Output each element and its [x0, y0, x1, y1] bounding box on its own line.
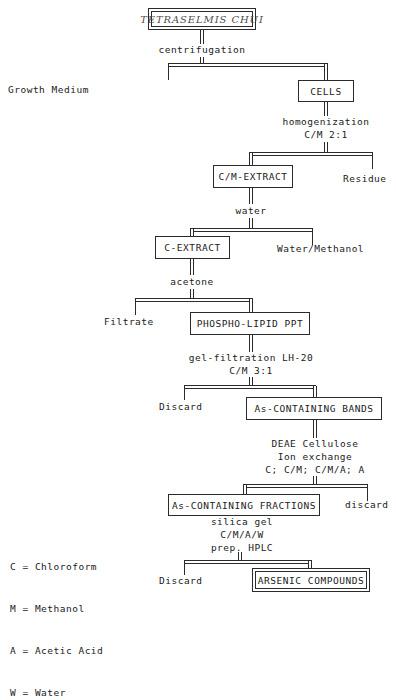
node-arsenic-compounds: ARSENIC COMPOUNDS: [252, 568, 370, 592]
branch-bar-centrifugation: [168, 63, 328, 67]
byproduct-residue: Residue: [343, 173, 387, 186]
legend: C = Chloroform M = Methanol A = Acetic A…: [10, 532, 103, 700]
process-centrifugation: centrifugation: [158, 44, 245, 57]
node-cm-extract-label: C/M-EXTRACT: [215, 171, 292, 182]
node-arsenic-compounds-label: ARSENIC COMPOUNDS: [254, 575, 369, 586]
branch-bar-acetone: [135, 298, 253, 302]
node-organism: TETRASELMIS CHUI: [148, 8, 256, 30]
byproduct-filtrate: Filtrate: [104, 316, 154, 329]
node-as-containing-bands-label: As-CONTAINING BANDS: [250, 403, 377, 414]
connector-cm-extract-water: [249, 188, 253, 204]
process-water: water: [235, 205, 266, 218]
branch-bar-gelfiltration: [184, 385, 316, 389]
connector-bands-deae: [313, 420, 317, 438]
node-cells-label: CELLS: [306, 86, 345, 97]
process-deae-line3: C; C/M; C/M/A; A: [265, 464, 365, 477]
branch-bar-water: [190, 228, 313, 232]
branch-drop-residue: [372, 153, 373, 169]
legend-item-methanol: M = Methanol: [10, 602, 103, 616]
node-as-containing-bands: As-CONTAINING BANDS: [246, 397, 382, 420]
branch-drop-cells: [324, 64, 328, 81]
connector-c-extract-acetone: [190, 259, 194, 275]
branch-bar-hplc: [184, 560, 312, 564]
process-hplc-line3: prep. HPLC: [211, 542, 273, 555]
process-hplc-line2: C/M/A/W: [220, 529, 264, 542]
node-as-containing-fractions-label: As-CONTAINING FRACTIONS: [168, 500, 320, 511]
branch-bar-homogenization: [249, 152, 373, 156]
connector-organism-centrifugation: [200, 30, 204, 44]
branch-drop-growth-medium: [168, 64, 169, 80]
process-gelfiltration-line1: gel-filtration LH-20: [189, 352, 313, 365]
connector-cells-homogenization: [324, 102, 328, 116]
node-c-extract: C-EXTRACT: [155, 236, 230, 259]
node-organism-label: TETRASELMIS CHUI: [136, 14, 268, 25]
process-gelfiltration-line2: C/M 3:1: [229, 365, 273, 378]
process-acetone: acetone: [170, 276, 214, 289]
branch-bar-deae: [243, 484, 368, 488]
byproduct-discard-bands: Discard: [159, 401, 203, 414]
process-hplc-line1: silica gel: [211, 516, 273, 529]
process-deae-line2: Ion exchange: [278, 451, 353, 464]
node-phospholipid-ppt: PHOSPHO-LIPID PPT: [190, 312, 310, 335]
node-cm-extract: C/M-EXTRACT: [213, 165, 293, 188]
process-homogenization-line1: homogenization: [282, 116, 369, 129]
branch-drop-discard-bands: [184, 386, 185, 400]
branch-drop-ppt: [249, 299, 253, 313]
node-as-containing-fractions: As-CONTAINING FRACTIONS: [168, 494, 320, 516]
node-c-extract-label: C-EXTRACT: [160, 242, 224, 253]
byproduct-growth-medium: Growth Medium: [8, 84, 89, 97]
branch-drop-discard-final: [184, 561, 185, 575]
legend-item-chloroform: C = Chloroform: [10, 560, 103, 574]
node-phospholipid-ppt-label: PHOSPHO-LIPID PPT: [193, 318, 308, 329]
process-deae-line1: DEAE Cellulose: [271, 438, 358, 451]
byproduct-discard-final: Discard: [159, 575, 203, 588]
legend-item-water: W = Water: [10, 686, 103, 700]
branch-drop-filtrate: [135, 299, 136, 315]
process-homogenization-line2: C/M 2:1: [304, 129, 348, 142]
byproduct-water-methanol: Water/Methanol: [277, 243, 364, 256]
byproduct-discard-fractions: discard: [345, 499, 389, 512]
connector-ppt-gelfiltration: [249, 335, 253, 352]
node-cells: CELLS: [298, 80, 354, 102]
legend-item-acetic-acid: A = Acetic Acid: [10, 644, 103, 658]
